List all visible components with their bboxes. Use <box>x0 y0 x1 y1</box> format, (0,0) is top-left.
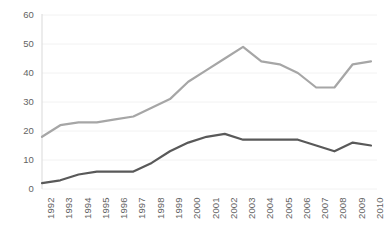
x-tick-label: 2007 <box>320 197 330 219</box>
x-tick-label: 1996 <box>119 197 129 219</box>
chart-plot-area <box>0 0 389 226</box>
line-chart: 0102030405060 19921993199419951996199719… <box>0 0 389 226</box>
x-tick-label: 2001 <box>211 197 221 219</box>
y-tick-label: 50 <box>8 39 34 49</box>
x-tick-label: 2009 <box>357 197 367 219</box>
x-tick-label: 1992 <box>46 197 56 219</box>
x-tick-label: 1995 <box>101 197 111 219</box>
y-tick-label: 60 <box>8 10 34 20</box>
x-tick-label: 2006 <box>302 197 312 219</box>
x-tick-label: 1998 <box>156 197 166 219</box>
x-tick-label: 2005 <box>284 197 294 219</box>
x-tick-label: 2002 <box>229 197 239 219</box>
series-lines <box>42 47 371 183</box>
y-tick-label: 0 <box>8 184 34 194</box>
x-tick-label: 1993 <box>64 197 74 219</box>
x-tick-label: 2000 <box>192 197 202 219</box>
y-tick-label: 40 <box>8 68 34 78</box>
y-tick-label: 20 <box>8 126 34 136</box>
gridlines <box>42 15 377 189</box>
x-tick-label: 2004 <box>265 197 275 219</box>
x-tick-label: 1997 <box>137 197 147 219</box>
series-line-lower-series <box>42 134 371 183</box>
x-tick-label: 1994 <box>83 197 93 219</box>
y-tick-label: 10 <box>8 155 34 165</box>
y-tick-label: 30 <box>8 97 34 107</box>
x-tick-label: 2010 <box>375 197 385 219</box>
x-tick-label: 2003 <box>247 197 257 219</box>
series-line-upper-series <box>42 47 371 137</box>
x-tick-label: 1999 <box>174 197 184 219</box>
x-tick-label: 2008 <box>338 197 348 219</box>
